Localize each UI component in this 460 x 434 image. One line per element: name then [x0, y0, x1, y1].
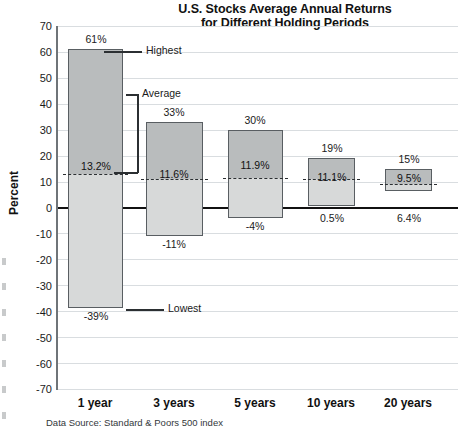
- y-tick-m60: -60: [18, 359, 52, 370]
- bar-1-year-average-line: [63, 174, 128, 175]
- y-tick-20: 20: [18, 151, 52, 162]
- x-tick-1-year: 1 year: [50, 396, 140, 410]
- bar-1-year-high-label: 61%: [51, 34, 141, 45]
- callout-lowest-label: Lowest: [168, 303, 201, 314]
- bar-3-years-low-label: -11%: [129, 239, 219, 250]
- callout-average-leader-bottom: [114, 172, 138, 174]
- bar-5-years[interactable]: [228, 130, 283, 218]
- y-tick-60: 60: [18, 47, 52, 58]
- y-tick-m40: -40: [18, 307, 52, 318]
- bar-20-years-high-label: 15%: [364, 154, 454, 165]
- gridline-m50: [58, 337, 458, 338]
- y-tick-m10: -10: [18, 229, 52, 240]
- y-tick-m30: -30: [18, 281, 52, 292]
- bar-1-year[interactable]: [68, 49, 123, 308]
- bar-1-year-lower: [69, 174, 122, 307]
- y-tick-m70: -70: [18, 384, 52, 395]
- gridline-m70: [58, 389, 458, 390]
- bar-20-years-average-line: [380, 184, 437, 185]
- gridline-m60: [58, 363, 458, 364]
- x-tick-3-years: 3 years: [129, 396, 219, 410]
- scan-artifact: [2, 283, 6, 290]
- scan-artifact: [2, 360, 6, 367]
- bar-20-years-average-label: 9.5%: [364, 173, 454, 184]
- bar-5-years-average-label: 11.9%: [210, 160, 300, 171]
- scan-artifact: [2, 412, 6, 419]
- bar-20-years-low-label: 6.4%: [364, 213, 454, 224]
- callout-highest-leader: [104, 51, 142, 53]
- scan-artifact: [2, 258, 6, 265]
- y-axis-title: Percent: [7, 153, 21, 233]
- callout-average-leader-top: [126, 94, 137, 96]
- bar-1-year-upper: [69, 50, 122, 174]
- gridline-70: [58, 26, 458, 27]
- scan-artifact: [2, 309, 6, 316]
- bar-1-year-average-label: 13.2%: [51, 161, 141, 172]
- y-tick-m20: -20: [18, 255, 52, 266]
- callout-lowest-leader: [126, 309, 164, 311]
- y-tick-30: 30: [18, 125, 52, 136]
- bar-5-years-high-label: 30%: [210, 115, 300, 126]
- x-tick-20-years: 20 years: [363, 396, 453, 410]
- bar-3-years-average-label: 11.6%: [129, 169, 219, 180]
- callout-highest-label: Highest: [146, 45, 182, 56]
- y-tick-70: 70: [18, 21, 52, 32]
- bar-3-years-high-label: 33%: [129, 107, 219, 118]
- callout-average-leader-vertical: [137, 94, 139, 173]
- chart-title-line-1: U.S. Stocks Average Annual Returns: [120, 2, 450, 16]
- y-tick-0: 0: [18, 203, 52, 214]
- bar-5-years-lower: [229, 178, 282, 217]
- scan-artifact: [2, 386, 6, 393]
- scan-artifact: [2, 334, 6, 341]
- plot-area: 61% 13.2% -39% 33% 11.6% -11% 30% 11.9% …: [58, 26, 458, 389]
- bar-1-year-low-label: -39%: [51, 311, 141, 322]
- bar-3-years-lower: [147, 179, 202, 235]
- y-tick-40: 40: [18, 99, 52, 110]
- bar-10-years-high-label: 19%: [287, 143, 377, 154]
- y-tick-50: 50: [18, 73, 52, 84]
- bar-5-years-average-line: [223, 178, 288, 179]
- y-tick-10: 10: [18, 177, 52, 188]
- y-tick-m50: -50: [18, 333, 52, 344]
- callout-average-label: Average: [142, 88, 181, 99]
- data-source-note: Data Source: Standard & Poors 500 index: [46, 417, 223, 428]
